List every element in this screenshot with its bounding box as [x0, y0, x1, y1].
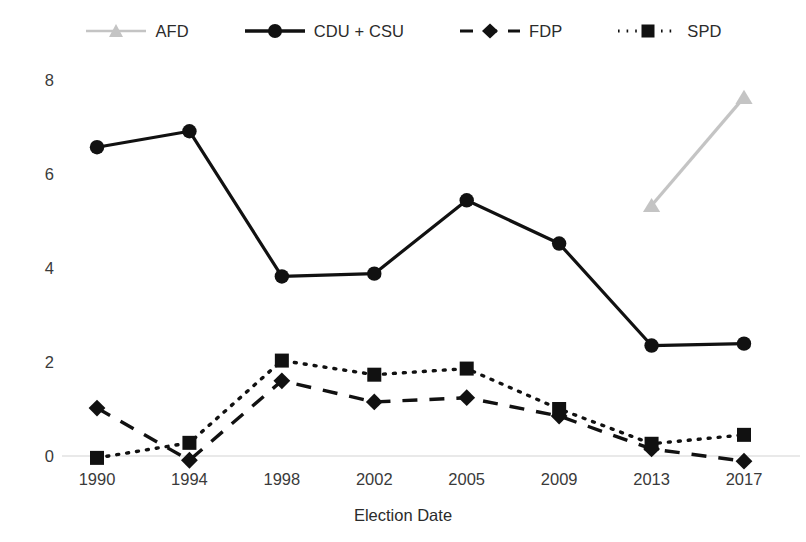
- x-axis-title: Election Date: [0, 506, 806, 525]
- circle-data-point-marker: [182, 124, 196, 138]
- diamond-data-point-marker: [366, 394, 383, 411]
- series-line: [97, 131, 744, 345]
- x-tick-label: 1998: [242, 470, 322, 489]
- square-data-point-marker: [182, 436, 196, 450]
- square-data-point-marker: [645, 437, 659, 451]
- plot-area: [0, 0, 806, 542]
- plot-svg: [0, 0, 806, 542]
- x-tick-label: 2013: [612, 470, 692, 489]
- series-line: [652, 97, 744, 205]
- series-fdp: [89, 372, 753, 469]
- chart-container: AFD CDU + CSU FDP: [0, 0, 806, 542]
- x-tick-label: 1994: [149, 470, 229, 489]
- series-spd: [90, 354, 751, 465]
- circle-data-point-marker: [460, 193, 474, 207]
- circle-data-point-marker: [367, 266, 381, 280]
- x-tick-label: 2005: [427, 470, 507, 489]
- y-tick-label: 0: [10, 447, 54, 466]
- x-tick-label: 2009: [519, 470, 599, 489]
- x-tick-label: 2002: [334, 470, 414, 489]
- y-tick-label: 2: [10, 353, 54, 372]
- series-afd: [643, 90, 753, 212]
- triangle-data-point-marker: [735, 90, 752, 104]
- y-tick-label: 6: [10, 165, 54, 184]
- square-data-point-marker: [737, 428, 751, 442]
- y-tick-label: 8: [10, 71, 54, 90]
- circle-data-point-marker: [90, 140, 104, 154]
- x-tick-label: 2017: [704, 470, 784, 489]
- circle-data-point-marker: [552, 236, 566, 250]
- diamond-data-point-marker: [89, 400, 106, 417]
- series-cdu-csu: [90, 124, 751, 353]
- square-data-point-marker: [275, 354, 289, 368]
- circle-data-point-marker: [644, 338, 658, 352]
- circle-data-point-marker: [275, 269, 289, 283]
- square-data-point-marker: [90, 451, 104, 465]
- square-data-point-marker: [552, 402, 566, 416]
- circle-data-point-marker: [737, 336, 751, 350]
- square-data-point-marker: [460, 362, 474, 376]
- y-tick-label: 4: [10, 259, 54, 278]
- square-data-point-marker: [367, 368, 381, 382]
- x-tick-label: 1990: [57, 470, 137, 489]
- diamond-data-point-marker: [458, 389, 475, 406]
